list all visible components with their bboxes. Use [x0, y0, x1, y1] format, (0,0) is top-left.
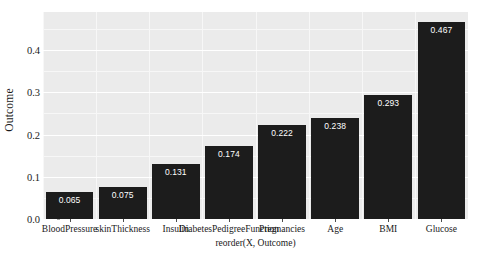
x-axis-tick-mark: [282, 219, 283, 222]
bar: 0.293: [364, 95, 412, 219]
bar: 0.222: [258, 125, 306, 219]
gridline-major: [43, 92, 468, 93]
gridline-major: [43, 50, 468, 51]
x-axis-title: reorder(X, Outcome): [43, 238, 468, 248]
gridline-vertical: [415, 12, 416, 219]
x-axis-tick-mark: [388, 219, 389, 222]
x-axis-tick-mark: [335, 219, 336, 222]
y-axis-tick-labels: 0.00.10.20.30.4: [16, 12, 40, 219]
bar: 0.075: [99, 187, 147, 219]
x-axis-tick-mark: [441, 219, 442, 222]
bar-value-label: 0.065: [46, 195, 94, 205]
gridline-vertical: [309, 12, 310, 219]
y-axis-tick-label: 0.1: [27, 171, 40, 182]
bar-value-label: 0.238: [311, 121, 359, 131]
x-axis-tick-label: Age: [327, 224, 343, 234]
bar-value-label: 0.222: [258, 128, 306, 138]
x-axis-tick-label: Pregnancies: [259, 224, 305, 234]
gridline-vertical: [256, 12, 257, 219]
bar-value-label: 0.075: [99, 190, 147, 200]
y-axis-tick-label: 0.2: [27, 129, 40, 140]
y-axis-title-text: Outcome: [3, 88, 15, 132]
x-axis-tick-marks: [43, 219, 468, 222]
x-axis-tick-label: BloodPressure: [42, 224, 97, 234]
bar: 0.174: [205, 146, 253, 220]
x-axis-tick-labels: BloodPressureskinThicknessInsulinDiabete…: [43, 224, 468, 238]
x-axis-tick-label: Glucose: [426, 224, 457, 234]
bar-value-label: 0.174: [205, 149, 253, 159]
y-axis-tick-label: 0.3: [27, 87, 40, 98]
gridline-minor: [43, 29, 468, 30]
gridline-vertical: [149, 12, 150, 219]
x-axis-tick-label: BMI: [379, 224, 397, 234]
gridline-minor: [43, 71, 468, 72]
x-axis-tick-mark: [70, 219, 71, 222]
x-axis-tick-mark: [123, 219, 124, 222]
gridline-vertical: [43, 12, 44, 219]
plot-panel: 0.0650.0750.1310.1740.2220.2380.2930.467: [43, 12, 468, 219]
bar-value-label: 0.293: [364, 98, 412, 108]
bar: 0.065: [46, 192, 94, 219]
gridline-vertical: [96, 12, 97, 219]
x-axis-tick-mark: [229, 219, 230, 222]
bar-value-label: 0.467: [418, 25, 466, 35]
gridline-vertical: [362, 12, 363, 219]
y-axis-tick-label: 0.4: [27, 45, 40, 56]
bar: 0.238: [311, 118, 359, 219]
x-axis-tick-mark: [176, 219, 177, 222]
bar: 0.131: [152, 164, 200, 219]
gridline-vertical: [202, 12, 203, 219]
x-axis-tick-label: skinThickness: [96, 224, 150, 234]
y-axis-tick-label: 0.0: [27, 214, 40, 225]
bar: 0.467: [418, 22, 466, 219]
bar-value-label: 0.131: [152, 167, 200, 177]
bar-chart: Outcome 0.00.10.20.30.4 0.0650.0750.1310…: [0, 0, 481, 263]
